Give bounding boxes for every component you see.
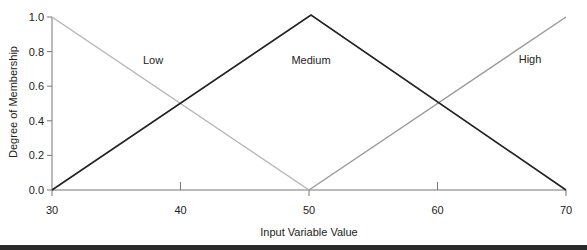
bottom-border <box>0 245 587 250</box>
y-tick-label: 0.0 <box>29 184 44 196</box>
x-tick-label: 30 <box>46 204 58 216</box>
x-tick-label: 50 <box>303 204 315 216</box>
x-tick-label: 70 <box>560 204 572 216</box>
y-tick-label: 0.2 <box>29 149 44 161</box>
membership-function-chart: 0.0 0.2 0.4 0.6 0.8 1.0 30 40 50 60 70 L… <box>0 0 587 250</box>
series-label-low: Low <box>143 54 163 66</box>
y-tick-label: 0.6 <box>29 80 44 92</box>
series-medium-line <box>52 15 566 190</box>
x-tick-label: 60 <box>431 204 443 216</box>
series-label-medium: Medium <box>291 54 330 66</box>
y-tick-label: 0.4 <box>29 115 44 127</box>
series-label-high: High <box>519 53 542 65</box>
y-tick-label: 0.8 <box>29 46 44 58</box>
y-tick-label: 1.0 <box>29 11 44 23</box>
x-ticks: 30 40 50 60 70 <box>46 182 572 216</box>
x-tick-label: 40 <box>174 204 186 216</box>
y-axis-title: Degree of Membership <box>7 46 19 158</box>
y-ticks: 0.0 0.2 0.4 0.6 0.8 1.0 <box>29 11 52 196</box>
x-axis-title: Input Variable Value <box>260 226 357 238</box>
